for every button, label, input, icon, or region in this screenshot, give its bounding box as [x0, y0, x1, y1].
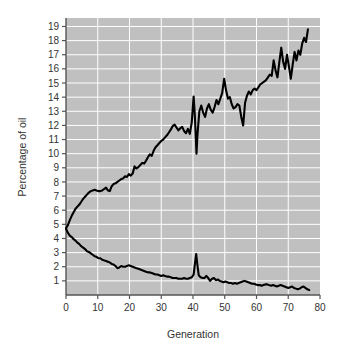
y-tick-label: 6 — [53, 205, 59, 216]
y-tick-label: 7 — [53, 191, 59, 202]
y-tick-label: 11 — [49, 134, 60, 145]
y-tick-label: 17 — [48, 49, 60, 60]
chart-canvas: 12345678910111213141516171819 0102030405… — [0, 0, 347, 346]
y-axis-title: Percentage of oil — [16, 118, 28, 197]
x-tick-label: 60 — [251, 302, 263, 313]
y-tick-label: 10 — [48, 148, 60, 159]
x-tick-label: 20 — [124, 302, 136, 313]
y-tick-label: 9 — [53, 162, 59, 173]
x-tick-label: 40 — [187, 302, 199, 313]
x-tick-label: 70 — [283, 302, 295, 313]
y-tick-label: 18 — [48, 35, 60, 46]
y-tick-label: 14 — [48, 92, 60, 103]
y-tick-label: 3 — [53, 247, 59, 258]
chart-figure: 12345678910111213141516171819 0102030405… — [0, 0, 347, 346]
x-tick-label: 30 — [156, 302, 168, 313]
y-tick-label: 12 — [48, 120, 60, 131]
x-tick-label: 10 — [92, 302, 104, 313]
y-tick-label: 5 — [53, 219, 59, 230]
y-tick-label: 8 — [53, 177, 59, 188]
y-tick-label: 1 — [53, 275, 59, 286]
x-tick-label: 50 — [219, 302, 231, 313]
x-tick-label: 80 — [314, 302, 326, 313]
x-tick-label: 0 — [63, 302, 69, 313]
x-axis-title: Generation — [167, 328, 219, 340]
x-tick-labels: 01020304050607080 — [63, 302, 326, 313]
y-tick-label: 13 — [48, 106, 60, 117]
y-tick-label: 15 — [48, 78, 60, 89]
y-tick-label: 2 — [53, 261, 59, 272]
y-tick-label: 4 — [53, 233, 59, 244]
y-tick-label: 16 — [48, 63, 60, 74]
y-tick-label: 19 — [48, 21, 60, 32]
